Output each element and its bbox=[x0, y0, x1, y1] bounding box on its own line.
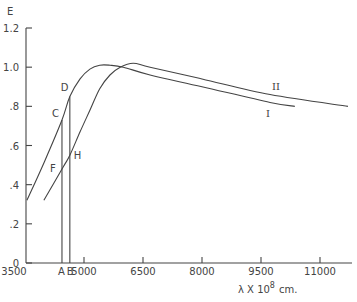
y-axis-title: E bbox=[7, 6, 13, 17]
marker-label-b: B bbox=[67, 266, 74, 277]
x-tick-label: 6500 bbox=[130, 266, 155, 277]
y-tick-label: 1.2 bbox=[3, 23, 19, 34]
x-tick-label: 8000 bbox=[189, 266, 214, 277]
x-axis: 3500500065008000950011000 bbox=[1, 257, 352, 277]
y-tick-label: .4 bbox=[9, 180, 19, 191]
curve-ii-label: II bbox=[272, 81, 280, 92]
x-tick-label: 5000 bbox=[71, 266, 96, 277]
x-axis-title-main: λ X 10 bbox=[238, 284, 270, 295]
x-tick-label: 9500 bbox=[248, 266, 273, 277]
point-label-c: C bbox=[52, 108, 59, 119]
curves: III bbox=[27, 63, 348, 200]
curve-ii bbox=[44, 63, 348, 200]
point-label-d: D bbox=[61, 82, 69, 93]
y-tick-label: .2 bbox=[9, 219, 19, 230]
point-label-f: F bbox=[50, 163, 56, 174]
x-axis-title-unit: cm. bbox=[279, 284, 297, 295]
marker-label-a: A bbox=[58, 266, 65, 277]
x-tick-label: 3500 bbox=[1, 266, 26, 277]
x-tick-label: 11000 bbox=[304, 266, 336, 277]
x-axis-title: λ X 108cm. bbox=[238, 281, 297, 295]
spectral-chart: 0.2.4.6.81.01.2 350050006500800095001100… bbox=[0, 0, 357, 302]
curve-i-label: I bbox=[266, 108, 270, 119]
y-tick-label: .8 bbox=[9, 101, 19, 112]
y-tick-label: .6 bbox=[9, 141, 19, 152]
x-axis-title-sup: 8 bbox=[270, 281, 275, 290]
y-tick-label: 1.0 bbox=[3, 62, 19, 73]
point-label-h: H bbox=[74, 150, 82, 161]
y-axis: 0.2.4.6.81.01.2 bbox=[3, 23, 32, 269]
